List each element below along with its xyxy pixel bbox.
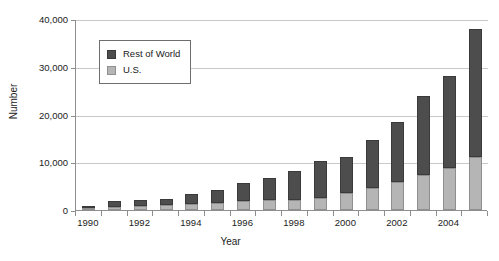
x-axis-tick-mark	[487, 211, 488, 216]
y-axis-tick-label: 0	[8, 206, 68, 216]
bar-1991	[108, 201, 121, 210]
legend-label: Rest of World	[123, 49, 180, 59]
bar-1993	[160, 199, 173, 210]
y-axis-tick-mark	[71, 20, 76, 21]
x-axis-tick-mark	[461, 211, 462, 216]
bar-segment-rest-of-world-1995	[211, 190, 224, 203]
bar-segment-rest-of-world-1999	[314, 161, 327, 198]
bar-segment-us-2002	[391, 182, 404, 210]
x-axis-tick-mark	[75, 211, 76, 216]
bar-segment-us-1998	[288, 200, 301, 211]
legend-item-rest-of-world: Rest of World	[107, 46, 180, 62]
x-axis-tick-mark	[127, 211, 128, 216]
x-axis-tick-mark	[281, 211, 282, 216]
bar-2001	[366, 140, 379, 210]
x-axis-tick-mark	[307, 211, 308, 216]
x-axis-tick-label: 1994	[171, 218, 211, 228]
bar-2005	[469, 29, 482, 210]
bar-segment-rest-of-world-2000	[340, 157, 353, 194]
x-axis-tick-mark	[101, 211, 102, 216]
bar-1998	[288, 171, 301, 210]
chart-legend: Rest of WorldU.S.	[99, 40, 191, 84]
bar-segment-rest-of-world-2004	[443, 76, 456, 168]
legend-item-us: U.S.	[107, 62, 180, 78]
bar-segment-rest-of-world-2003	[417, 96, 430, 174]
x-axis-tick-mark	[230, 211, 231, 216]
bar-segment-us-1993	[160, 205, 173, 210]
x-axis-tick-mark	[204, 211, 205, 216]
x-axis-title-text: Year	[220, 236, 240, 247]
x-axis-tick-label: 2000	[325, 218, 365, 228]
bar-segment-us-1997	[263, 200, 276, 210]
x-axis-tick-label: 1996	[222, 218, 262, 228]
bar-segment-us-1990	[82, 208, 95, 210]
x-axis-tick-mark	[152, 211, 153, 216]
x-axis-tick-label: 1998	[274, 218, 314, 228]
bar-segment-us-1994	[185, 204, 198, 210]
bar-segment-us-1995	[211, 203, 224, 210]
x-axis-tick-label: 1992	[119, 218, 159, 228]
bar-segment-us-2003	[417, 175, 430, 210]
bar-segment-rest-of-world-2001	[366, 140, 379, 188]
bar-segment-rest-of-world-1996	[237, 183, 250, 202]
bar-segment-rest-of-world-2005	[469, 29, 482, 158]
bar-segment-us-2000	[340, 193, 353, 210]
bar-segment-us-1999	[314, 198, 327, 210]
bar-segment-rest-of-world-1998	[288, 171, 301, 199]
y-axis-tick-mark	[71, 163, 76, 164]
bar-segment-rest-of-world-1994	[185, 194, 198, 205]
bar-2004	[443, 76, 456, 210]
y-axis-tick-mark	[71, 116, 76, 117]
x-axis-tick-mark	[333, 211, 334, 216]
bar-1995	[211, 190, 224, 210]
y-axis-title: Number	[8, 67, 19, 137]
bar-segment-us-2004	[443, 168, 456, 210]
bar-1997	[263, 178, 276, 210]
bar-2002	[391, 122, 404, 210]
x-axis-tick-label: 2004	[428, 218, 468, 228]
y-axis-tick-label: 10,000	[8, 158, 68, 168]
bar-segment-rest-of-world-1997	[263, 178, 276, 201]
x-axis-tick-mark	[436, 211, 437, 216]
legend-swatch-icon	[107, 66, 116, 75]
x-axis-tick-mark	[358, 211, 359, 216]
bar-segment-us-1991	[108, 207, 121, 210]
bar-1992	[134, 200, 147, 210]
y-axis-tick-mark	[71, 68, 76, 69]
x-axis-tick-label: 2002	[377, 218, 417, 228]
bar-2000	[340, 157, 353, 210]
x-axis-tick-mark	[178, 211, 179, 216]
x-axis-tick-label: 1990	[68, 218, 108, 228]
bar-1994	[185, 194, 198, 210]
x-axis-tick-mark	[255, 211, 256, 216]
bar-segment-rest-of-world-1993	[160, 199, 173, 206]
bar-segment-rest-of-world-2002	[391, 122, 404, 182]
bar-segment-us-1992	[134, 206, 147, 210]
x-axis-tick-mark	[410, 211, 411, 216]
x-axis-title: Year	[0, 236, 499, 247]
bar-1996	[237, 183, 250, 210]
stacked-bar-chart: 010,00020,00030,00040,000 Number 1990199…	[0, 0, 499, 261]
bar-segment-us-2001	[366, 188, 379, 210]
x-axis-tick-mark	[384, 211, 385, 216]
y-axis-tick-label: 40,000	[8, 15, 68, 25]
bar-1990	[82, 207, 95, 210]
bar-segment-us-2005	[469, 157, 482, 210]
legend-label: U.S.	[123, 65, 141, 75]
bar-segment-us-1996	[237, 201, 250, 210]
legend-swatch-icon	[107, 50, 116, 59]
bar-2003	[417, 96, 430, 210]
bar-1999	[314, 161, 327, 210]
